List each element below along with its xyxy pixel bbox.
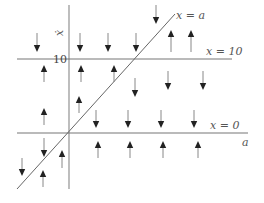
arrow-up-icon	[76, 96, 82, 113]
arrow-up-icon	[40, 170, 46, 187]
arrow-up-icon	[41, 65, 47, 82]
arrow-up-icon	[127, 141, 133, 158]
arrow-down-icon	[105, 33, 111, 52]
arrow-up-icon	[188, 30, 194, 52]
horizontal-axis-label: a	[242, 136, 249, 149]
label-x-equals-0: x = 0	[210, 119, 239, 132]
arrow-up-icon	[160, 141, 166, 158]
flow-arrows	[19, 5, 206, 187]
tick-label-10: 10	[53, 53, 67, 66]
arrow-up-icon	[95, 141, 101, 158]
arrow-down-icon	[191, 110, 197, 128]
arrow-up-icon	[78, 65, 84, 82]
arrow-up-icon	[195, 141, 201, 158]
bifurcation-diagram: x = a x = 10 x = 0 a 10 ẋ	[0, 0, 264, 203]
arrow-down-icon	[132, 78, 138, 97]
arrow-down-icon	[133, 33, 139, 52]
arrow-down-icon	[165, 71, 171, 90]
arrow-down-icon	[200, 71, 206, 90]
arrow-down-icon	[77, 33, 83, 52]
line-x-equals-a	[17, 14, 175, 189]
arrow-down-icon	[153, 5, 159, 24]
arrow-up-icon	[41, 108, 47, 125]
label-x-equals-a: x = a	[176, 9, 205, 22]
arrow-up-icon	[59, 150, 65, 168]
label-x-equals-10: x = 10	[206, 45, 242, 58]
arrow-down-icon	[158, 110, 164, 128]
arrow-down-icon	[125, 110, 131, 128]
arrow-up-icon	[168, 30, 174, 52]
arrow-down-icon	[19, 158, 25, 176]
arrow-down-icon	[93, 110, 99, 128]
vertical-axis-label: ẋ	[53, 29, 66, 36]
arrow-down-icon	[41, 138, 47, 157]
arrow-down-icon	[34, 33, 40, 52]
